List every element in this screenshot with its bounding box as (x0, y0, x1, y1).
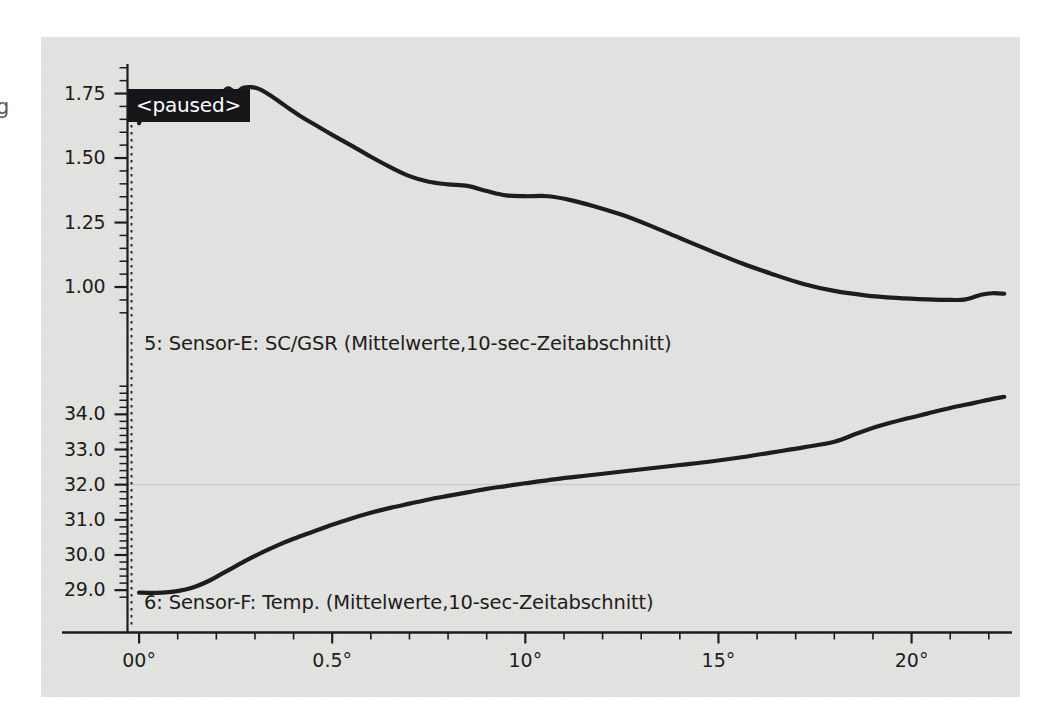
y-tick-label-lower: 34.0 (0, 402, 106, 424)
series-line-sensor-f (139, 397, 1004, 593)
y-tick-label-upper: 1.50 (0, 146, 106, 168)
y-tick-label-lower: 29.0 (0, 578, 106, 600)
y-tick-label-lower: 30.0 (0, 543, 106, 565)
y-tick-label-upper: 1.00 (0, 275, 106, 297)
y-tick-label-upper: 1.25 (0, 211, 106, 233)
series-label-upper: 5: Sensor-E: SC/GSR (Mittelwerte,10-sec-… (144, 332, 671, 355)
x-tick-label: 20° (872, 649, 952, 671)
y-tick-label-lower: 31.0 (0, 508, 106, 530)
chart-page: g 00°0.5°10°15°20°1.751.501.251.0034.033… (0, 0, 1047, 727)
x-tick-label: 15° (678, 649, 758, 671)
y-tick-label-lower: 32.0 (0, 473, 106, 495)
y-tick-label-lower: 33.0 (0, 438, 106, 460)
y-tick-label-upper: 1.75 (0, 82, 106, 104)
series-label-lower: 6: Sensor-F: Temp. (Mittelwerte,10-sec-Z… (144, 591, 653, 614)
x-tick-label: 10° (485, 649, 565, 671)
x-tick-label: 00° (99, 649, 179, 671)
series-line-sensor-e (139, 87, 1004, 300)
x-tick-label: 0.5° (292, 649, 372, 671)
paused-badge: <paused> (128, 89, 250, 122)
